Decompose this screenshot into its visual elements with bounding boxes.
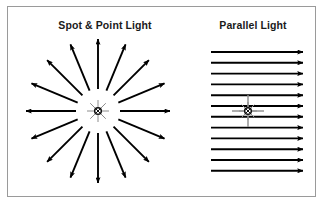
figure-border	[7, 6, 316, 197]
panel-title-parallel-light: Parallel Light	[198, 19, 308, 31]
panel-title-spot-point-light: Spot & Point Light	[20, 19, 190, 31]
figure-root: Spot & Point Light Parallel Light	[0, 0, 324, 205]
